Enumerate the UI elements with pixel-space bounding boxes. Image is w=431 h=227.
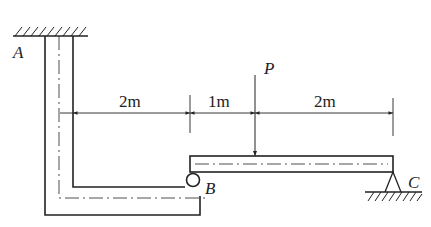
dimension-label-2: 1m	[208, 92, 230, 111]
diagram-canvas: A B C P 2m 1m 2m	[0, 0, 431, 227]
fixed-support-a	[13, 27, 88, 36]
label-p: P	[263, 59, 274, 78]
dimension-label-1: 2m	[119, 92, 141, 111]
l-frame	[45, 36, 208, 215]
label-b: B	[205, 179, 216, 198]
label-c: C	[408, 173, 420, 192]
dimension-label-3: 2m	[314, 92, 336, 111]
label-a: A	[12, 43, 24, 62]
hinge-b	[187, 174, 200, 187]
beam-bc	[190, 156, 393, 172]
